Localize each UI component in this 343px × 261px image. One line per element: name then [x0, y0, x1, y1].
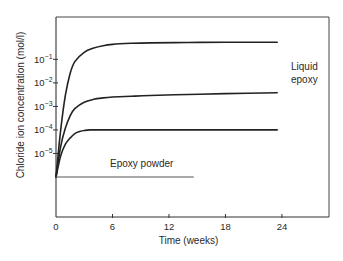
y-tick-label: 10−4: [34, 123, 53, 135]
x-tick-label: 12: [164, 221, 175, 232]
chart: 06121824 10−110−210−310−410−5 Time (week…: [0, 0, 343, 261]
x-tick-label: 0: [53, 221, 58, 232]
annotation-liquid: Liquid: [291, 61, 318, 72]
x-tick-label: 24: [277, 221, 288, 232]
x-axis-label: Time (weeks): [159, 235, 219, 246]
x-tick-label: 6: [110, 221, 115, 232]
annotation-epoxy: epoxy: [291, 74, 318, 85]
y-axis-label: Chloride ion concentration (mol/l): [15, 32, 26, 179]
annotation-epoxy-powder: Epoxy powder: [110, 158, 174, 169]
x-tick-label: 18: [220, 221, 231, 232]
y-tick-label: 10−5: [34, 147, 53, 159]
series-line-liquid-epoxy-1: [56, 42, 277, 177]
y-tick-label: 10−1: [34, 53, 53, 65]
series-line-liquid-epoxy-3: [56, 130, 277, 177]
y-tick-label: 10−3: [34, 100, 53, 112]
y-tick-label: 10−2: [34, 76, 53, 88]
